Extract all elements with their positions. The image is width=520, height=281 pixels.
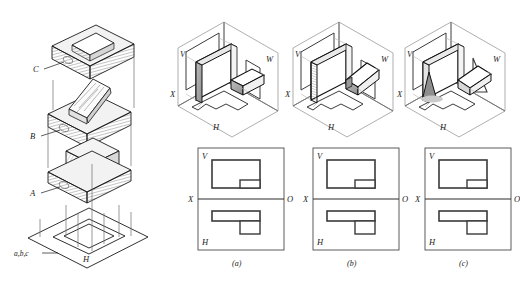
case-a-Hview-bar <box>212 211 260 221</box>
case-a-label-W: W <box>266 54 274 64</box>
case-a-ortho-label-X: X <box>187 194 194 204</box>
case-a-label-H: H <box>212 122 220 132</box>
case-a-Hview-block <box>240 221 260 234</box>
case-c-Hview-bar <box>439 211 487 221</box>
case-b-ortho-label-X: X <box>302 194 309 204</box>
solid-B-label: B <box>30 131 35 141</box>
case-c-gusset-shadow <box>421 96 443 103</box>
technical-drawing-figure: C B <box>0 0 520 281</box>
case-a-Vview-notch <box>240 180 260 188</box>
case-c-caption: (c) <box>459 259 468 268</box>
case-c-label-H: H <box>439 122 447 132</box>
case-c-ortho-label-O: O <box>514 194 520 204</box>
case-c-ortho-label-X: X <box>414 194 421 204</box>
case-b-Hview-block <box>355 221 375 234</box>
case-a-label-X: X <box>169 89 176 99</box>
case-b-ortho-label-O: O <box>402 194 408 204</box>
case-b-solid-plate-side <box>311 62 317 103</box>
case-a-ortho-label-H: H <box>201 237 209 247</box>
case-c-Vview-notch <box>467 180 487 188</box>
case-c-ortho-label-H: H <box>428 237 436 247</box>
case-c-label-X: X <box>396 89 403 99</box>
plane-H-label: H <box>82 254 90 264</box>
case-a-caption: (a) <box>232 259 242 268</box>
case-b-label-X: X <box>284 89 291 99</box>
case-a-ortho-label-O: O <box>287 194 293 204</box>
plane-H-traces-label: a,b,c <box>14 249 29 258</box>
case-b-Vview-notch <box>355 180 375 188</box>
case-b-caption: (b) <box>347 259 357 268</box>
case-b-label-W: W <box>381 54 389 64</box>
solid-A-label: A <box>29 188 36 198</box>
case-c-Hview-block <box>467 221 487 234</box>
solid-C-label: C <box>33 64 39 74</box>
case-a-solid-plate-side <box>196 62 202 103</box>
case-b-label-H: H <box>327 122 335 132</box>
case-b-ortho-label-H: H <box>316 237 324 247</box>
case-b-Hview-bar <box>327 211 375 221</box>
case-c-label-W: W <box>493 54 501 64</box>
